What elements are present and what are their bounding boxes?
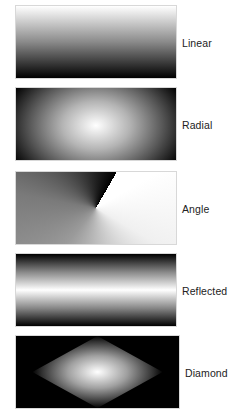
diamond-label: Diamond [185, 367, 228, 379]
angle-gradient-swatch [15, 171, 177, 245]
reflected-label: Reflected [182, 285, 227, 297]
linear-label: Linear [182, 37, 212, 49]
diamond-gradient-swatch [15, 335, 180, 409]
angle-label: Angle [182, 203, 209, 215]
radial-label: Radial [182, 119, 212, 131]
radial-gradient-swatch [15, 87, 177, 161]
linear-gradient-swatch [15, 5, 177, 79]
diamond-shape [32, 336, 162, 408]
reflected-gradient-swatch [15, 253, 177, 327]
